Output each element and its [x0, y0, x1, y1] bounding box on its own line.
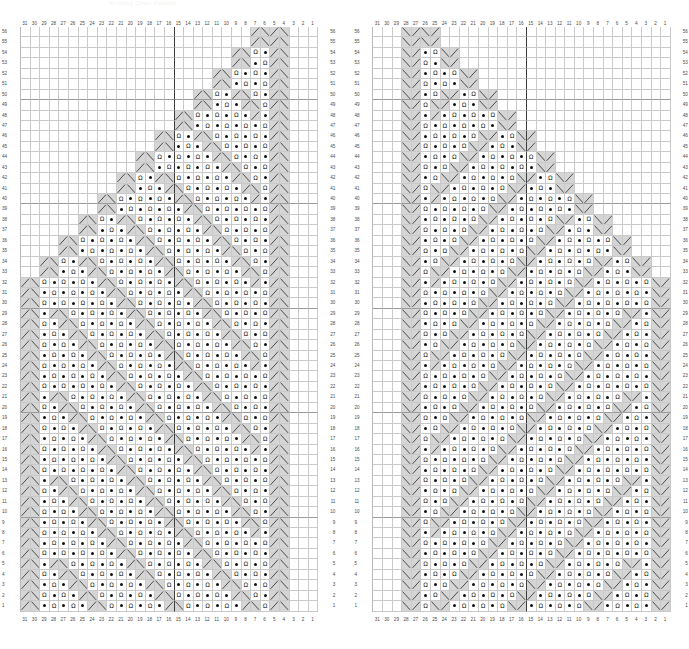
chart-cell[interactable]: Ω — [632, 330, 642, 340]
chart-cell[interactable] — [117, 518, 127, 528]
chart-cell[interactable]: Ω — [460, 518, 470, 528]
chart-cell[interactable] — [575, 403, 585, 413]
chart-cell[interactable] — [251, 27, 261, 37]
chart-cell[interactable]: Ω — [136, 173, 146, 183]
chart-cell[interactable]: Ω — [489, 257, 499, 267]
chart-cell[interactable] — [632, 319, 642, 329]
chart-cell[interactable] — [412, 309, 422, 319]
chart-cell[interactable]: Ω — [623, 507, 633, 517]
chart-cell[interactable] — [546, 455, 556, 465]
chart-cell[interactable] — [575, 79, 585, 89]
chart-cell[interactable] — [594, 27, 604, 37]
chart-cell[interactable] — [242, 267, 252, 277]
chart-cell[interactable]: Ω — [469, 528, 479, 538]
chart-cell[interactable]: Ω — [50, 538, 60, 548]
chart-cell[interactable] — [652, 351, 662, 361]
chart-cell[interactable] — [556, 142, 566, 152]
chart-cell[interactable] — [421, 319, 431, 329]
chart-cell[interactable] — [431, 538, 441, 548]
chart-cell[interactable]: Ω — [604, 549, 614, 559]
chart-cell[interactable] — [421, 215, 431, 225]
chart-cell[interactable] — [489, 131, 499, 141]
chart-cell[interactable] — [393, 570, 403, 580]
chart-cell[interactable] — [623, 486, 633, 496]
chart-cell[interactable] — [594, 507, 604, 517]
chart-cell[interactable] — [421, 90, 431, 100]
chart-cell[interactable] — [383, 27, 393, 37]
chart-cell[interactable] — [31, 163, 41, 173]
chart-cell[interactable] — [165, 549, 175, 559]
chart-cell[interactable]: Ω — [441, 371, 451, 381]
chart-cell[interactable] — [537, 246, 547, 256]
chart-cell[interactable] — [604, 434, 614, 444]
chart-cell[interactable] — [460, 37, 470, 47]
chart-cell[interactable] — [184, 455, 194, 465]
chart-cell[interactable] — [546, 486, 556, 496]
chart-cell[interactable] — [556, 340, 566, 350]
chart-cell[interactable]: Ω — [441, 288, 451, 298]
chart-cell[interactable] — [175, 580, 185, 590]
chart-cell[interactable] — [479, 559, 489, 569]
chart-cell[interactable] — [565, 392, 575, 402]
chart-cell[interactable] — [489, 538, 499, 548]
chart-cell[interactable] — [652, 69, 662, 79]
chart-cell[interactable] — [280, 486, 290, 496]
chart-cell[interactable] — [21, 465, 31, 475]
chart-cell[interactable]: Ω — [261, 58, 271, 68]
chart-cell[interactable] — [203, 79, 213, 89]
chart-cell[interactable] — [21, 580, 31, 590]
chart-cell[interactable]: Ω — [98, 465, 108, 475]
chart-cell[interactable] — [136, 48, 146, 58]
chart-cell[interactable]: Ω — [584, 570, 594, 580]
chart-cell[interactable]: Ω — [517, 580, 527, 590]
chart-cell[interactable] — [117, 455, 127, 465]
chart-cell[interactable] — [184, 90, 194, 100]
chart-cell[interactable]: Ω — [508, 591, 518, 601]
chart-cell[interactable] — [412, 100, 422, 110]
chart-cell[interactable] — [508, 559, 518, 569]
chart-cell[interactable] — [194, 58, 204, 68]
chart-cell[interactable] — [373, 163, 383, 173]
chart-cell[interactable] — [50, 111, 60, 121]
chart-cell[interactable]: Ω — [59, 465, 69, 475]
chart-cell[interactable] — [184, 570, 194, 580]
chart-cell[interactable]: Ω — [527, 194, 537, 204]
chart-cell[interactable] — [412, 382, 422, 392]
chart-cell[interactable] — [290, 184, 300, 194]
chart-cell[interactable] — [421, 298, 431, 308]
chart-cell[interactable] — [127, 257, 137, 267]
chart-cell[interactable] — [79, 351, 89, 361]
chart-cell[interactable] — [537, 69, 547, 79]
chart-cell[interactable]: Ω — [155, 236, 165, 246]
chart-cell[interactable] — [79, 455, 89, 465]
chart-cell[interactable] — [261, 486, 271, 496]
chart-cell[interactable] — [50, 194, 60, 204]
chart-cell[interactable] — [203, 27, 213, 37]
chart-cell[interactable]: Ω — [556, 330, 566, 340]
chart-cell[interactable]: Ω — [556, 204, 566, 214]
chart-cell[interactable]: Ω — [194, 257, 204, 267]
chart-cell[interactable]: Ω — [50, 288, 60, 298]
chart-cell[interactable] — [40, 100, 50, 110]
chart-cell[interactable] — [213, 601, 223, 611]
chart-cell[interactable] — [194, 382, 204, 392]
chart-cell[interactable] — [604, 559, 614, 569]
chart-cell[interactable] — [222, 236, 232, 246]
chart-cell[interactable]: Ω — [421, 142, 431, 152]
chart-cell[interactable] — [107, 278, 117, 288]
chart-cell[interactable]: Ω — [556, 538, 566, 548]
chart-cell[interactable] — [251, 194, 261, 204]
chart-cell[interactable] — [498, 371, 508, 381]
chart-cell[interactable] — [393, 309, 403, 319]
chart-cell[interactable] — [412, 424, 422, 434]
chart-cell[interactable] — [107, 194, 117, 204]
chart-cell[interactable]: Ω — [98, 319, 108, 329]
chart-cell[interactable] — [632, 507, 642, 517]
chart-cell[interactable] — [383, 37, 393, 47]
chart-cell[interactable] — [489, 580, 499, 590]
chart-cell[interactable] — [21, 90, 31, 100]
chart-cell[interactable]: Ω — [40, 382, 50, 392]
chart-cell[interactable] — [309, 278, 319, 288]
chart-cell[interactable]: Ω — [242, 371, 252, 381]
chart-cell[interactable] — [489, 121, 499, 131]
